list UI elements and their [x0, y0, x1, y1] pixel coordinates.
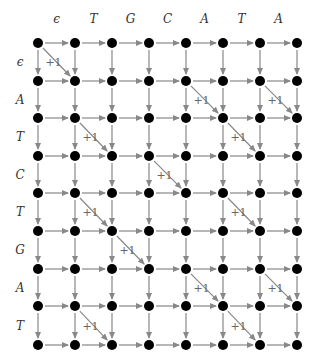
grid-node: [107, 301, 117, 311]
grid-node: [218, 76, 228, 86]
grid-node: [144, 264, 154, 274]
grid-node: [33, 340, 43, 350]
grid-node: [218, 38, 228, 48]
grid-node: [255, 188, 265, 198]
grid-node: [255, 151, 265, 161]
grid-node: [292, 226, 302, 236]
grid-node: [144, 188, 154, 198]
column-label: A: [273, 12, 283, 26]
grid-node: [33, 113, 43, 123]
row-label: A: [15, 281, 25, 295]
grid-node: [218, 340, 228, 350]
grid-node: [107, 340, 117, 350]
grid-node: [218, 188, 228, 198]
grid-node: [181, 151, 191, 161]
nodes: [33, 38, 302, 350]
grid-node: [218, 113, 228, 123]
grid-node: [292, 188, 302, 198]
grid-node: [255, 301, 265, 311]
match-weight-label: +1: [82, 131, 98, 144]
grid-node: [292, 38, 302, 48]
grid-node: [33, 226, 43, 236]
grid-node: [218, 151, 228, 161]
grid-node: [218, 226, 228, 236]
match-weight-label: +1: [82, 206, 98, 219]
row-label: C: [15, 168, 24, 182]
grid-node: [292, 340, 302, 350]
grid-node: [70, 38, 80, 48]
match-weight-label: +1: [267, 94, 283, 107]
grid-node: [107, 226, 117, 236]
diagonal-edges: +1+1+1+1+1+1+1+1+1+1+1+1+1: [43, 48, 292, 340]
grid-node: [144, 301, 154, 311]
match-weight-label: +1: [156, 169, 172, 182]
grid-node: [144, 38, 154, 48]
grid-node: [292, 151, 302, 161]
grid-node: [107, 188, 117, 198]
row-label: ϵ: [17, 55, 24, 69]
grid-node: [107, 113, 117, 123]
grid-node: [70, 264, 80, 274]
match-weight-label: +1: [45, 56, 61, 69]
grid-node: [144, 340, 154, 350]
grid-node: [255, 76, 265, 86]
grid-node: [181, 113, 191, 123]
column-label: G: [126, 12, 136, 26]
row-label: A: [15, 93, 25, 107]
grid-node: [107, 264, 117, 274]
grid-node: [70, 76, 80, 86]
column-label: T: [89, 12, 98, 26]
column-label: T: [237, 12, 246, 26]
row-labels: ϵATCTGAT: [15, 55, 26, 333]
grid-node: [292, 113, 302, 123]
grid-node: [181, 340, 191, 350]
grid-node: [181, 301, 191, 311]
grid-node: [255, 38, 265, 48]
grid-node: [181, 264, 191, 274]
match-weight-label: +1: [230, 206, 246, 219]
match-weight-label: +1: [267, 282, 283, 295]
column-label: C: [163, 12, 172, 26]
grid-node: [70, 113, 80, 123]
grid-node: [181, 226, 191, 236]
grid-node: [218, 264, 228, 274]
grid-node: [144, 226, 154, 236]
grid-node: [33, 151, 43, 161]
grid-node: [144, 151, 154, 161]
row-label: T: [16, 319, 25, 333]
match-weight-label: +1: [119, 244, 135, 257]
grid-node: [33, 188, 43, 198]
grid-node: [107, 151, 117, 161]
grid-node: [33, 301, 43, 311]
grid-node: [33, 76, 43, 86]
match-weight-label: +1: [82, 320, 98, 333]
match-weight-label: +1: [230, 131, 246, 144]
grid-node: [255, 113, 265, 123]
column-label: ϵ: [53, 12, 60, 26]
grid-node: [144, 113, 154, 123]
edit-graph-diagram: ϵTGCATA ϵATCTGAT +1+1+1+1+1+1+1+1+1+1+1+…: [0, 0, 319, 364]
grid-node: [33, 38, 43, 48]
match-weight-label: +1: [193, 282, 209, 295]
row-label: T: [16, 205, 25, 219]
grid-node: [292, 76, 302, 86]
grid-node: [107, 38, 117, 48]
column-label: A: [199, 12, 209, 26]
grid-node: [181, 188, 191, 198]
grid-node: [255, 340, 265, 350]
row-label: G: [15, 243, 25, 257]
grid-node: [255, 264, 265, 274]
grid-node: [70, 188, 80, 198]
grid-node: [255, 226, 265, 236]
grid-node: [70, 151, 80, 161]
row-label: T: [16, 130, 25, 144]
grid-node: [292, 264, 302, 274]
match-weight-label: +1: [193, 94, 209, 107]
match-weight-label: +1: [230, 320, 246, 333]
grid-node: [107, 76, 117, 86]
grid-node: [70, 340, 80, 350]
grid-node: [218, 301, 228, 311]
grid-node: [181, 38, 191, 48]
grid-node: [181, 76, 191, 86]
grid-node: [70, 226, 80, 236]
